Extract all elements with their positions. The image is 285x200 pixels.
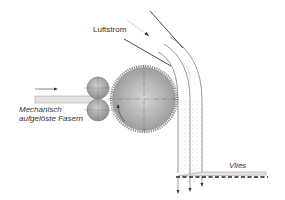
airflow-arrow — [127, 20, 149, 36]
feed-direction-arrow — [35, 88, 58, 91]
web-label: Vlies — [229, 161, 246, 170]
airflow-label: Luftstrom — [93, 25, 127, 34]
fibers-label-line1: Mechanisch — [19, 105, 62, 114]
opening-drum — [108, 64, 180, 134]
airlay-process-diagram: Luftstrom Mechanisch aufgelöste Fasern V… — [0, 0, 285, 200]
fibers-label-line2: aufgelöste Fasern — [19, 114, 84, 123]
suction-arrows — [177, 177, 204, 194]
fiber-stream — [178, 100, 202, 175]
fiber-feed-strip — [35, 96, 97, 103]
